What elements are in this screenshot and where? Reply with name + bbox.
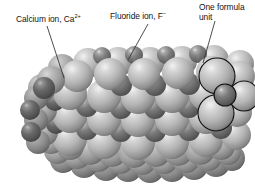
fluoride-charge-superscript: − (163, 10, 166, 16)
calcium-ion-label-text: Calcium ion, Ca (16, 14, 74, 24)
formula-unit-label-line1: One formula (199, 2, 245, 12)
fluoride-ion-label: Fluoride ion, F− (110, 11, 166, 21)
crystal-lattice-figure (0, 0, 255, 186)
formula-unit-label-line2: unit (199, 12, 212, 22)
calcium-charge-superscript: 2+ (74, 13, 80, 19)
fluoride-ion-label-text: Fluoride ion, F (110, 11, 163, 21)
calcium-ion-label: Calcium ion, Ca2+ (16, 14, 81, 24)
formula-unit-label: One formula unit (199, 2, 251, 22)
